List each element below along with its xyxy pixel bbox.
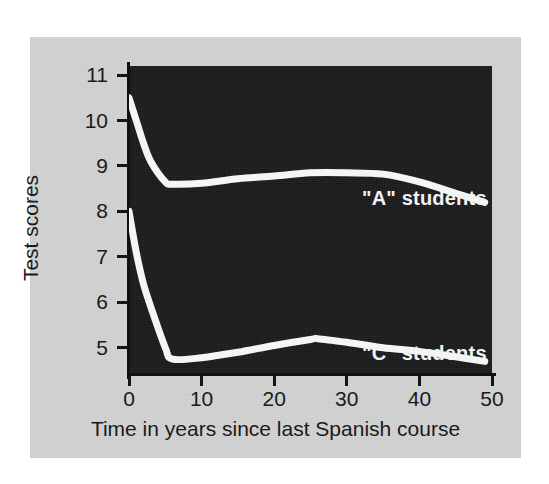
plot-series-svg: [129, 66, 492, 375]
y-axis-tick-label: 8: [74, 200, 108, 221]
x-axis-tick-label: 50: [462, 388, 522, 409]
x-axis-tick-label: 40: [389, 388, 449, 409]
y-axis-tick: [117, 74, 128, 77]
y-axis-tick: [117, 346, 128, 349]
series-label-c-students: "C" students: [362, 342, 487, 365]
x-axis-tick: [200, 376, 203, 386]
y-axis-tick-label: 10: [74, 110, 108, 131]
y-axis-title: Test scores: [19, 153, 43, 303]
y-axis-tick-label: 9: [74, 155, 108, 176]
y-axis-tick: [117, 255, 128, 258]
figure-root: "A" students "C" students 111098765 0102…: [0, 0, 549, 484]
series-label-a-students: "A" students: [362, 187, 487, 210]
y-axis-tick-label: 11: [74, 64, 108, 85]
y-axis-tick: [117, 164, 128, 167]
x-axis-tick: [491, 376, 494, 386]
x-axis-tick-label: 20: [244, 388, 304, 409]
x-axis-tick: [273, 376, 276, 386]
y-axis-tick-label: 6: [74, 291, 108, 312]
y-axis-tick: [117, 119, 128, 122]
y-axis-tick-label: 5: [74, 337, 108, 358]
x-axis-tick-label: 10: [172, 388, 232, 409]
x-axis-tick-label: 0: [99, 388, 159, 409]
x-axis-tick: [128, 376, 131, 386]
x-axis-tick-label: 30: [317, 388, 377, 409]
y-axis-tick-label: 7: [74, 246, 108, 267]
series-line-c-students: [129, 211, 485, 361]
plot-area: "A" students "C" students: [129, 66, 492, 375]
x-axis-title: Time in years since last Spanish course: [30, 417, 521, 441]
x-axis-tick: [345, 376, 348, 386]
x-axis-tick: [418, 376, 421, 386]
y-axis-tick-labels: 111098765: [74, 0, 108, 484]
y-axis-tick: [117, 210, 128, 213]
y-axis-tick: [117, 301, 128, 304]
